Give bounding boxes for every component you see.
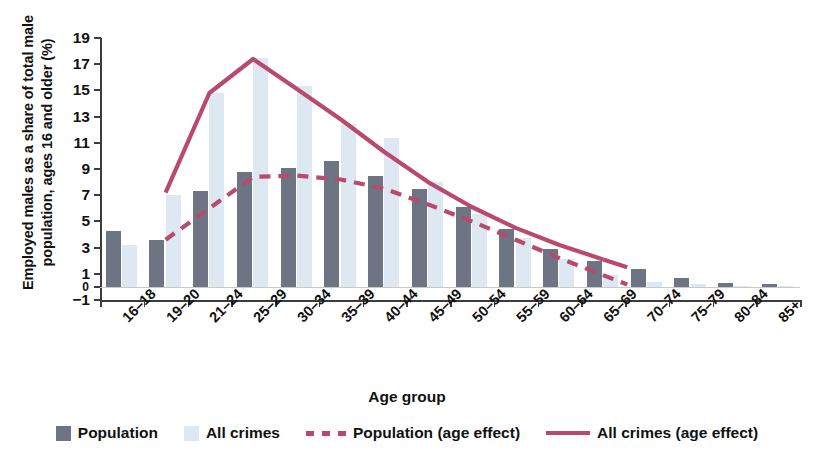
legend-swatch-solid-line-icon <box>546 431 590 435</box>
y-axis-tick-label: 17 <box>73 55 90 73</box>
legend-swatch-dashed-line-icon <box>306 431 346 436</box>
legend-swatch-box-icon <box>56 426 71 441</box>
plot-area: 1917151311975310−1 <box>100 38 800 300</box>
legend-label: Population <box>78 424 158 442</box>
y-axis-title-container: Employed males as a share of total male … <box>0 0 56 320</box>
x-axis-title: Age group <box>0 388 814 406</box>
y-axis-title: Employed males as a share of total male … <box>19 3 56 303</box>
legend-item[interactable]: Population <box>56 424 158 442</box>
line-all-crimes-age-effect-tail <box>603 259 627 267</box>
y-axis-tick-label: 9 <box>81 160 90 178</box>
trend-lines <box>100 38 800 300</box>
chart-figure: Employed males as a share of total male … <box>0 0 814 455</box>
y-axis-tick-label: 11 <box>74 134 90 152</box>
line-population-age-effect <box>166 176 603 276</box>
y-axis-tick-label: 15 <box>73 81 90 99</box>
legend-item[interactable]: All crimes (age effect) <box>546 424 758 442</box>
y-axis-tick-label: −1 <box>72 291 90 309</box>
legend-item[interactable]: Population (age effect) <box>306 424 520 442</box>
y-axis-tick-label: 3 <box>81 239 90 257</box>
y-axis-tick-label: 13 <box>73 108 90 126</box>
x-axis-tick-label: 85+ <box>775 297 804 326</box>
legend-swatch-box-icon <box>184 426 199 441</box>
y-axis-tick-label: 5 <box>81 212 90 230</box>
y-axis-tick-label: 19 <box>73 29 90 47</box>
legend-label: Population (age effect) <box>353 424 520 442</box>
legend-label: All crimes <box>206 424 280 442</box>
legend-label: All crimes (age effect) <box>597 424 758 442</box>
line-all-crimes-age-effect <box>166 59 603 259</box>
legend-item[interactable]: All crimes <box>184 424 280 442</box>
x-axis-tick-labels: 16–1819–2021–2425–2930–3435–3940–4445–49… <box>100 300 800 370</box>
line-population-age-effect-tail <box>603 275 627 284</box>
chart-legend: PopulationAll crimesPopulation (age effe… <box>0 424 814 442</box>
y-axis-tick-label: 7 <box>81 186 90 204</box>
